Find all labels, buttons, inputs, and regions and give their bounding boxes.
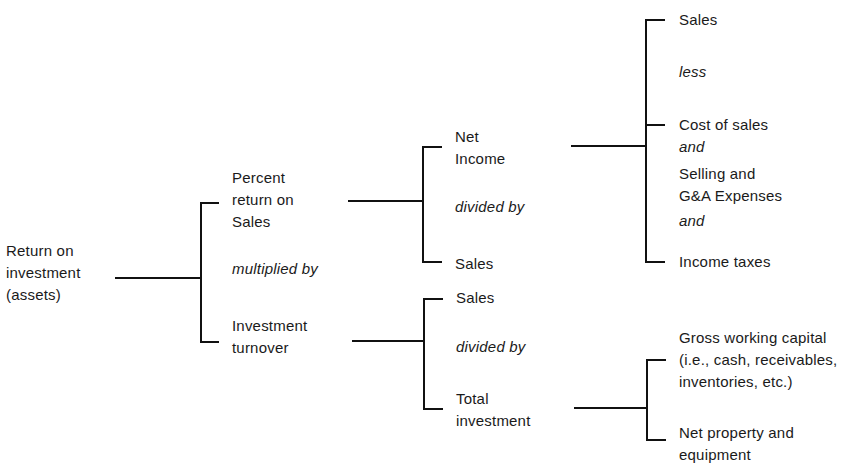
node-sales-upper: Sales — [455, 253, 494, 275]
bracket-tick-bottom — [422, 261, 442, 263]
bracket-vertical — [200, 202, 202, 343]
bracket-vertical — [646, 359, 648, 441]
root-label-line-1: Return on — [6, 240, 74, 262]
percent-return-line-2: return on — [232, 189, 294, 211]
bracket-tick-top — [423, 298, 443, 300]
operator-multiplied-by: multiplied by — [232, 258, 318, 280]
operator-divided-by-upper: divided by — [455, 196, 525, 218]
bracket-tick-bottom — [200, 341, 219, 343]
investment-turnover-line-2: turnover — [232, 337, 289, 359]
selling-ga-line-2: G&A Expenses — [679, 185, 782, 207]
net-income-line-1: Net — [455, 126, 479, 148]
total-investment-line-2: investment — [456, 410, 531, 432]
bracket-tick-bottom — [423, 408, 443, 410]
bracket-tick-top — [646, 359, 666, 361]
net-property-line-2: equipment — [679, 444, 751, 466]
bracket-vertical — [645, 19, 647, 263]
gross-working-capital-line-2: (i.e., cash, receivables, — [679, 349, 837, 371]
total-investment-line-1: Total — [456, 388, 489, 410]
operator-divided-by-lower: divided by — [456, 336, 526, 358]
connector-line — [115, 277, 201, 279]
gross-working-capital-line-1: Gross working capital — [679, 327, 827, 349]
connector-line — [574, 407, 647, 409]
connector-line — [571, 145, 646, 147]
bracket-tick-sales — [645, 19, 665, 21]
gross-working-capital-line-3: inventories, etc.) — [679, 371, 793, 393]
root-label-line-2: investment — [6, 262, 81, 284]
operator-and-2: and — [679, 210, 705, 232]
percent-return-line-3: Sales — [232, 211, 271, 233]
selling-ga-line-1: Selling and — [679, 163, 755, 185]
investment-turnover-line-1: Investment — [232, 315, 307, 337]
bracket-tick-income-taxes — [645, 261, 665, 263]
net-property-line-1: Net property and — [679, 422, 794, 444]
net-income-line-2: Income — [455, 148, 505, 170]
bracket-vertical — [423, 298, 425, 410]
component-cost-of-sales: Cost of sales — [679, 114, 768, 136]
percent-return-line-1: Percent — [232, 167, 285, 189]
bracket-tick-top — [200, 202, 219, 204]
operator-and-1: and — [679, 136, 705, 158]
root-label-line-3: (assets) — [6, 284, 61, 306]
connector-line — [348, 200, 423, 202]
connector-line — [352, 340, 424, 342]
bracket-vertical — [422, 146, 424, 263]
bracket-tick-bottom — [646, 439, 666, 441]
component-sales: Sales — [679, 9, 718, 31]
component-income-taxes: Income taxes — [679, 251, 771, 273]
operator-less: less — [679, 61, 706, 83]
node-sales-lower: Sales — [456, 287, 495, 309]
bracket-tick-top — [422, 146, 442, 148]
bracket-tick-cost-of-sales — [645, 124, 665, 126]
